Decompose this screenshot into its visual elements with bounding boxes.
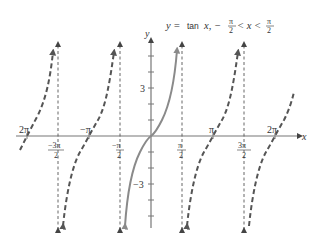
svg-text:2: 2 [242, 151, 246, 160]
x-tick-label-pi: π [209, 124, 214, 135]
svg-text:< x <: < x < [237, 20, 261, 31]
svg-text:tan: tan [187, 21, 199, 31]
svg-text:π: π [267, 17, 271, 26]
y-tick-label-neg3: −3 [133, 179, 144, 190]
y-tick-label-3: 3 [140, 83, 145, 94]
svg-text:2: 2 [179, 151, 183, 160]
svg-text:−3π: −3π [48, 141, 61, 150]
x-tick-label-negpi2: −π 2 [112, 141, 124, 160]
svg-text:2: 2 [54, 151, 58, 160]
x-tick-label-neg3pi2: −3π 2 [48, 141, 64, 160]
svg-text:π: π [178, 141, 182, 150]
svg-text:π: π [229, 17, 233, 26]
other-branches [20, 52, 294, 226]
x-tick-label-2pi: 2π [267, 124, 277, 135]
x-tick-label-neg2pi: 2π [19, 124, 29, 135]
y-axis-label: y [144, 28, 150, 39]
svg-text:2: 2 [267, 26, 271, 35]
x-tick-label-pi2: π 2 [177, 141, 186, 160]
svg-text:3π: 3π [238, 141, 246, 150]
x-axis-label: x [301, 131, 307, 142]
svg-text:2: 2 [229, 26, 233, 35]
x-tick-label-negpi: −π [80, 124, 91, 135]
x-tick-label-3pi2: 3π 2 [237, 141, 251, 160]
svg-text:−π: −π [112, 141, 121, 150]
chart-title: y = tan x, − π 2 < x < π 2 [165, 17, 274, 35]
svg-text:2: 2 [117, 151, 121, 160]
svg-text:x, −: x, − [203, 20, 221, 31]
svg-text:y =: y = [165, 20, 180, 31]
tangent-graph: x y 3 −3 [0, 0, 311, 236]
